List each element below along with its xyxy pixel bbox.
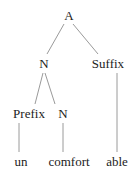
edge-a-n [47, 24, 64, 54]
morphology-tree: A N Suffix Prefix N un comfort able [0, 0, 137, 182]
node-a: A [64, 8, 74, 23]
node-n: N [39, 56, 49, 71]
node-n-inner: N [58, 106, 68, 121]
node-suffix: Suffix [92, 56, 125, 71]
leaf-comfort: comfort [48, 154, 90, 169]
edge-n-prefix [35, 73, 43, 104]
leaf-able: able [106, 154, 128, 169]
edge-n-n [45, 73, 55, 104]
edge-a-suffix [73, 24, 98, 54]
node-prefix: Prefix [13, 106, 45, 121]
leaf-un: un [15, 154, 29, 169]
